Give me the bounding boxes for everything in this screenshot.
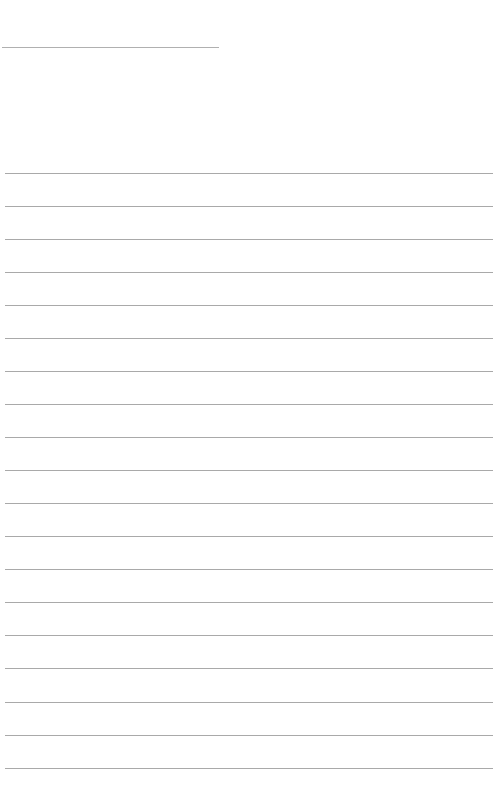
ruled-line bbox=[5, 503, 493, 504]
ruled-line bbox=[5, 668, 493, 669]
ruled-line bbox=[5, 536, 493, 537]
ruled-line bbox=[5, 239, 493, 240]
ruled-line bbox=[5, 272, 493, 273]
ruled-line bbox=[5, 437, 493, 438]
ruled-line bbox=[5, 768, 493, 769]
ruled-line bbox=[5, 206, 493, 207]
ruled-line bbox=[5, 602, 493, 603]
ruled-line bbox=[5, 404, 493, 405]
ruled-line bbox=[5, 173, 493, 174]
ruled-line bbox=[5, 735, 493, 736]
ruled-line bbox=[5, 305, 493, 306]
ruled-line bbox=[5, 371, 493, 372]
ruled-line bbox=[5, 569, 493, 570]
ruled-line bbox=[5, 702, 493, 703]
header-rule bbox=[2, 47, 219, 48]
ruled-line bbox=[5, 338, 493, 339]
ruled-line bbox=[5, 635, 493, 636]
ruled-line bbox=[5, 470, 493, 471]
